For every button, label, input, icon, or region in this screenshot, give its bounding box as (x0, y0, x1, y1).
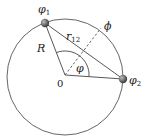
label-phi-big: ϕ (104, 20, 112, 33)
label-phi2: φ2 (129, 74, 141, 88)
label-r12: r12 (66, 30, 80, 44)
label-origin: 0 (57, 78, 63, 89)
particle-phi2 (119, 75, 127, 83)
angle-arc (56, 51, 89, 77)
outer-circle (7, 19, 123, 135)
particle-phi1 (41, 19, 49, 27)
circle-diagram: φ1 φ2 ϕ r12 R φ 0 (0, 0, 146, 136)
label-angle-phi: φ (76, 62, 84, 75)
label-R: R (36, 42, 45, 55)
radius-line-phi2 (65, 75, 123, 79)
label-phi1: φ1 (38, 3, 50, 17)
radius-line-R (45, 23, 65, 75)
